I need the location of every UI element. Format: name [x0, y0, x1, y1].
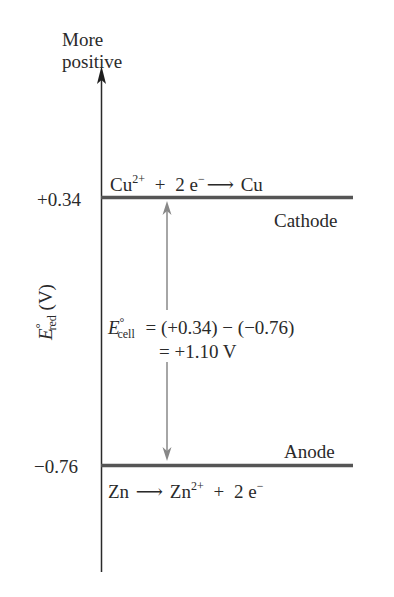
equation-symbol-sub: cell [117, 327, 134, 341]
anode-reaction: Zn ⟶ Zn2+ + 2 e− [108, 482, 263, 501]
y-axis-label: E°red (V) [36, 284, 55, 340]
cathode-reactant: Cu [110, 174, 132, 195]
cathode-product: Cu [241, 174, 263, 195]
cathode-reaction: Cu2+ + 2 e−⟶ Cu [110, 175, 263, 194]
equation-line1: = (+0.34) − (−0.76) [146, 317, 295, 338]
axis-top-label: More positive [62, 29, 122, 73]
cathode-role-label: Cathode [274, 211, 337, 230]
anode-electrons: 2 e [234, 481, 257, 502]
anode-value-label: −0.76 [34, 457, 78, 476]
axis-top-label-line2: positive [62, 51, 122, 73]
cell-potential-equation: E°cell = (+0.34) − (−0.76) [108, 318, 294, 337]
cathode-reactant-charge: 2+ [132, 172, 145, 186]
cathode-plus: + [155, 174, 166, 195]
diagram-graphics [0, 0, 394, 597]
cathode-value-label: +0.34 [37, 190, 81, 209]
anode-plus: + [214, 481, 225, 502]
anode-product: Zn [170, 481, 191, 502]
cathode-electron-charge: − [198, 172, 205, 186]
anode-electron-charge: − [257, 479, 264, 493]
reaction-arrow-icon: ⟶ [136, 481, 163, 502]
anode-reactant: Zn [108, 481, 129, 502]
y-axis-label-unit: (V) [35, 284, 56, 310]
y-axis-label-sub: red [45, 315, 59, 330]
cathode-electrons: 2 e [175, 174, 198, 195]
equation-line2: = +1.10 V [159, 342, 237, 361]
anode-role-label: Anode [284, 442, 335, 461]
anode-product-charge: 2+ [191, 479, 204, 493]
reaction-arrow-icon: ⟶ [207, 174, 234, 195]
axis-top-label-line1: More [62, 29, 122, 51]
